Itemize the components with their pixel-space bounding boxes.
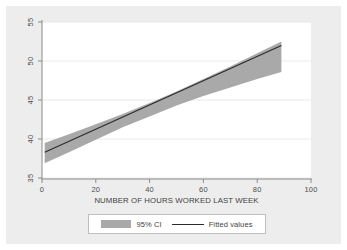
y-tick-marks (38, 22, 42, 178)
legend-entry-ci: 95% CI (101, 220, 161, 229)
x-tick-label: 80 (253, 185, 262, 194)
y-tick-label: 55 (26, 18, 35, 27)
x-tick-marks (42, 179, 311, 183)
x-tick-label: 40 (145, 185, 154, 194)
chart-legend: 95% CI Fitted values (88, 214, 266, 234)
ci-band-area (45, 42, 282, 164)
chart-screenshot: 3540455055 020406080100 NUMBER OF HOURS … (0, 0, 347, 250)
legend-label-ci: 95% CI (136, 220, 161, 229)
x-tick-label: 60 (199, 185, 208, 194)
legend-line-icon (172, 224, 204, 225)
x-tick-label: 0 (40, 185, 44, 194)
y-tick-label: 50 (26, 57, 35, 66)
y-tick-label: 40 (26, 135, 35, 144)
y-tick-label: 45 (26, 96, 35, 105)
y-tick-label: 35 (26, 174, 35, 183)
legend-label-fitted: Fitted values (209, 220, 253, 229)
fitted-values-line (45, 45, 282, 152)
x-tick-label: 20 (91, 185, 100, 194)
legend-swatch-icon (101, 220, 131, 228)
legend-entry-fitted: Fitted values (172, 220, 253, 229)
x-tick-label: 100 (304, 185, 317, 194)
chart-canvas (0, 0, 347, 250)
x-axis-title: NUMBER OF HOURS WORKED LAST WEEK (42, 196, 311, 205)
